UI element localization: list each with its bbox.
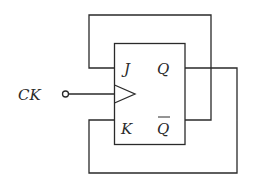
clock-edge-triangle <box>115 85 136 103</box>
clock-input-terminal <box>63 91 69 97</box>
k-input-label: K <box>120 120 133 138</box>
clock-label: CK <box>18 86 41 104</box>
jk-flip-flop-diagram: J K Q Q CK <box>0 0 257 188</box>
q-bar-output-label: Q <box>157 120 169 138</box>
q-output-label: Q <box>157 60 169 78</box>
j-input-label: J <box>121 60 131 78</box>
